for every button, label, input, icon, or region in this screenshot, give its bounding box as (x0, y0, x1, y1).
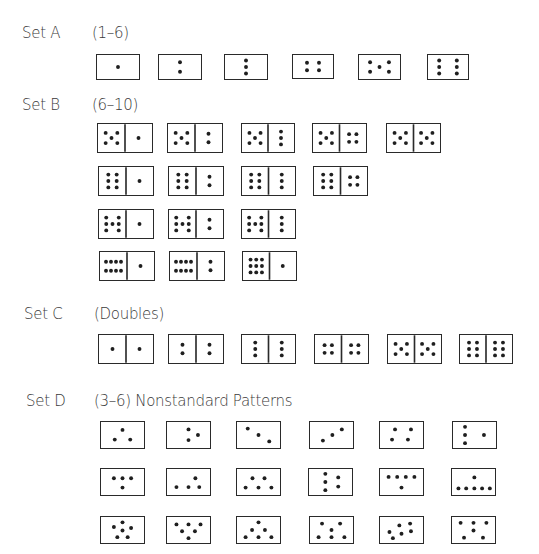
dot-icon (244, 58, 248, 62)
dot-pattern-icon (380, 422, 423, 448)
dot-icon (115, 141, 119, 145)
dot-icon (184, 260, 188, 264)
dot-pattern-icon (452, 469, 495, 495)
dot-icon (459, 521, 463, 525)
dot-icon (260, 258, 264, 262)
set-label: Set D (26, 392, 65, 410)
dot-icon (187, 485, 191, 489)
dot-icon (463, 441, 467, 445)
domino-pattern-icon (313, 124, 366, 152)
dot-icon (174, 228, 178, 232)
dot-icon (104, 222, 108, 226)
dot-icon (387, 475, 391, 479)
dot-icon (347, 132, 351, 136)
dot-icon (249, 185, 253, 189)
dot-card (379, 421, 424, 449)
dot-icon (393, 131, 397, 135)
dot-icon (259, 216, 263, 220)
dot-icon (129, 526, 133, 530)
dot-icon (280, 222, 284, 226)
dot-icon (437, 72, 441, 76)
dot-icon (181, 222, 185, 226)
domino-pattern-icon (315, 335, 368, 363)
dot-icon (244, 65, 248, 69)
dot-pattern-icon (237, 469, 280, 495)
dot-icon (280, 179, 284, 183)
dot-card (451, 468, 496, 496)
dot-icon (121, 486, 125, 490)
dot-icon (189, 269, 193, 273)
dot-pattern-icon (167, 469, 210, 495)
dot-icon (246, 427, 250, 431)
dot-pattern-icon (310, 422, 353, 448)
dot-icon (114, 269, 118, 273)
dot-pattern-icon (293, 55, 333, 78)
dot-icon (472, 529, 476, 533)
dot-icon (317, 61, 321, 65)
dot-icon (464, 486, 468, 490)
dot-icon (391, 536, 395, 540)
dot-icon (121, 520, 125, 524)
dot-icon (467, 347, 471, 351)
dot-icon (397, 523, 401, 527)
dot-icon (493, 353, 497, 357)
domino-pattern-icon (242, 167, 295, 195)
dot-icon (480, 486, 484, 490)
dot-icon (174, 141, 178, 145)
dot-icon (404, 131, 408, 135)
dot-icon (388, 530, 392, 534)
dot-icon (338, 522, 342, 526)
dot-icon (419, 141, 423, 145)
dot-icon (117, 228, 121, 232)
dot-icon (138, 222, 142, 226)
dot-icon (280, 185, 284, 189)
dot-icon (354, 140, 358, 144)
dot-card (309, 421, 354, 449)
domino-pattern-icon (169, 335, 223, 363)
dot-icon (394, 342, 398, 346)
dot-icon (356, 351, 360, 355)
dot-icon (185, 173, 189, 177)
dot-icon (419, 131, 423, 135)
dot-icon (176, 173, 180, 177)
set-description: (Doubles) (94, 305, 164, 323)
dot-icon (330, 351, 334, 355)
dot-icon (455, 72, 459, 76)
domino-pattern-icon (99, 167, 153, 195)
dot-icon (244, 535, 248, 539)
dot-icon (109, 269, 113, 273)
dot-icon (121, 529, 125, 533)
dot-icon (330, 528, 334, 532)
dot-icon (249, 179, 253, 183)
domino-card (167, 123, 223, 153)
dot-icon (244, 72, 248, 76)
dot-icon (317, 68, 321, 72)
dot-icon (111, 222, 115, 226)
domino-card (312, 123, 367, 153)
dot-icon (456, 486, 460, 490)
dot-icon (323, 488, 327, 492)
dot-icon (330, 131, 334, 135)
dot-icon (405, 342, 409, 346)
dot-icon (329, 179, 333, 183)
dot-card (96, 54, 140, 80)
dot-icon (137, 136, 141, 140)
dot-icon (178, 70, 182, 74)
dot-icon (431, 131, 435, 135)
dot-icon (189, 260, 193, 264)
domino-pattern-icon (169, 167, 223, 195)
dot-icon (420, 352, 424, 356)
dot-icon (368, 70, 372, 74)
domino-pattern-icon (242, 210, 295, 238)
dot-card (224, 54, 268, 80)
dot-icon (259, 131, 263, 135)
set-label: Set A (22, 24, 60, 42)
dot-icon (254, 264, 258, 268)
dot-icon (116, 65, 120, 69)
dot-icon (279, 136, 283, 140)
dot-card (452, 421, 497, 449)
dot-icon (349, 343, 353, 347)
dot-icon (472, 475, 476, 479)
dot-icon (281, 264, 285, 268)
dot-icon (114, 260, 118, 264)
